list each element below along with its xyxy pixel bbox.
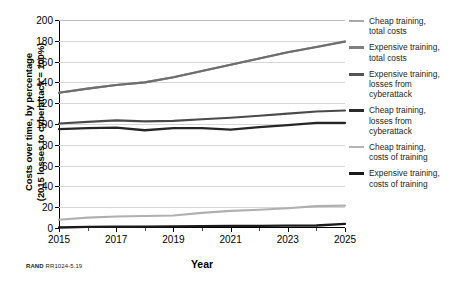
legend-line-swatch xyxy=(349,146,364,148)
series-line xyxy=(59,224,345,228)
x-tick-mark xyxy=(173,228,174,232)
x-tick-label: 2021 xyxy=(219,234,241,245)
series-line xyxy=(59,42,345,93)
source-id: RR1024-5.19 xyxy=(46,263,83,269)
series-line xyxy=(59,206,345,220)
y-tick-label: 80 xyxy=(42,139,53,150)
source-prefix: RAND xyxy=(26,263,44,269)
legend-label: Expensive training, total costs xyxy=(369,42,440,62)
y-tick-label: 180 xyxy=(36,35,53,46)
legend-line-swatch xyxy=(349,73,364,76)
x-tick-mark xyxy=(231,228,232,232)
x-tick-label: 2015 xyxy=(48,234,70,245)
x-tick-mark-minor xyxy=(259,228,260,231)
source-note: RAND RR1024-5.19 xyxy=(26,263,82,269)
y-tick-label: 20 xyxy=(42,202,53,213)
y-tick-label: 160 xyxy=(36,56,53,67)
y-tick-label: 200 xyxy=(36,15,53,26)
legend-item[interactable]: Cheap training, losses from cyberattack xyxy=(349,105,453,136)
series-lines xyxy=(59,20,345,228)
legend-label: Cheap training, total costs xyxy=(369,16,426,36)
legend-line-swatch xyxy=(349,172,364,175)
y-axis-title-line1: Costs over time, by percentage xyxy=(23,53,34,191)
x-axis-title: Year xyxy=(59,258,345,270)
x-tick-label: 2025 xyxy=(334,234,356,245)
legend-line-swatch xyxy=(349,20,364,22)
legend-item[interactable]: Expensive training, costs of training xyxy=(349,168,453,188)
legend-line-swatch xyxy=(349,109,364,112)
x-tick-label: 2017 xyxy=(105,234,127,245)
x-tick-mark xyxy=(288,228,289,232)
chart-legend: Cheap training, total costsExpensive tra… xyxy=(349,16,453,195)
legend-label: Expensive training, losses from cyberatt… xyxy=(369,69,440,100)
y-tick-label: 120 xyxy=(36,98,53,109)
figure-container: Costs over time, by percentage (2015 los… xyxy=(0,0,455,285)
legend-item[interactable]: Expensive training, total costs xyxy=(349,42,453,62)
y-tick-label: 60 xyxy=(42,160,53,171)
legend-label: Cheap training, losses from cyberattack xyxy=(369,105,426,136)
x-tick-mark xyxy=(116,228,117,232)
series-line xyxy=(59,123,345,130)
series-line xyxy=(59,110,345,123)
y-tick-label: 40 xyxy=(42,181,53,192)
legend-label: Cheap training, costs of training xyxy=(369,142,428,162)
legend-item[interactable]: Cheap training, costs of training xyxy=(349,142,453,162)
y-tick-label: 0 xyxy=(47,223,53,234)
x-tick-mark-minor xyxy=(316,228,317,231)
x-tick-label: 2019 xyxy=(162,234,184,245)
x-tick-mark xyxy=(345,228,346,232)
plot-area: 020406080100120140160180200 201520172019… xyxy=(59,20,345,228)
x-tick-mark-minor xyxy=(145,228,146,231)
x-tick-mark-minor xyxy=(202,228,203,231)
y-tick-label: 100 xyxy=(36,119,53,130)
y-tick-label: 140 xyxy=(36,77,53,88)
x-tick-mark-minor xyxy=(88,228,89,231)
legend-line-swatch xyxy=(349,46,364,48)
legend-item[interactable]: Expensive training, losses from cyberatt… xyxy=(349,69,453,100)
legend-label: Expensive training, costs of training xyxy=(369,168,440,188)
legend-item[interactable]: Cheap training, total costs xyxy=(349,16,453,36)
x-tick-label: 2023 xyxy=(277,234,299,245)
